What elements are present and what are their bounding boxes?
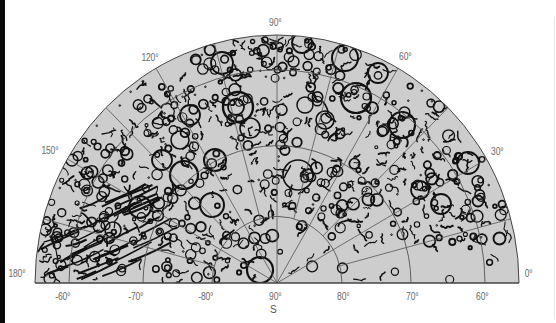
latitude-label: -60° bbox=[55, 291, 70, 302]
longitude-label: 150° bbox=[41, 145, 58, 156]
south-pole-label: S bbox=[270, 304, 277, 315]
latitude-label: 80° bbox=[337, 291, 349, 302]
latitude-label: -80° bbox=[198, 291, 213, 302]
longitude-label: 180° bbox=[8, 268, 25, 279]
latitude-label: -70° bbox=[128, 291, 143, 302]
longitude-label: 60° bbox=[399, 51, 411, 62]
longitude-label: 0° bbox=[525, 268, 533, 279]
latitude-label: 70° bbox=[406, 291, 418, 302]
longitude-label: 30° bbox=[491, 146, 503, 157]
latitude-label: 60° bbox=[476, 291, 488, 302]
longitude-label: 120° bbox=[141, 52, 158, 63]
polar-crater-map bbox=[0, 0, 556, 323]
longitude-label: 90° bbox=[269, 17, 281, 28]
latitude-label: 90° bbox=[269, 291, 281, 302]
